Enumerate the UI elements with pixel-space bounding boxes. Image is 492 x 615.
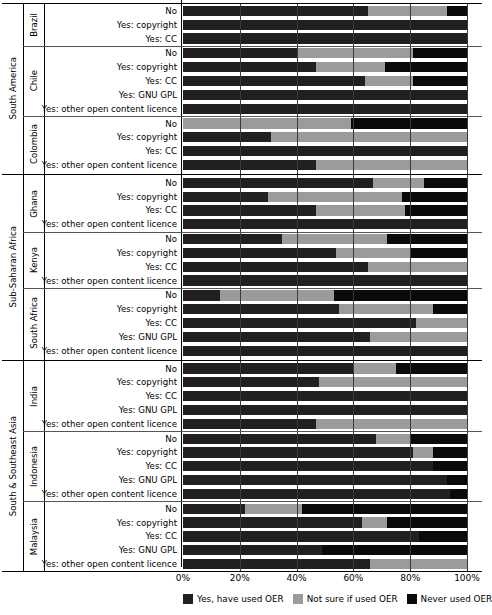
row-label: Yes: CC [146,459,178,473]
bar-row [183,405,467,415]
country-label: South Africa [29,297,39,349]
row-label: Yes: CC [146,316,178,330]
bar-segment-1 [376,434,410,444]
country-separator [23,232,482,233]
row-label: No [165,432,177,446]
row-label: Yes: GNU GPL [119,473,177,487]
region-separator [2,360,482,361]
bar-row [183,205,467,215]
bar-segment-0 [183,545,322,555]
bar-segment-2 [396,363,467,373]
row-label: Yes: copyright [117,246,177,260]
bar-segment-2 [413,48,467,58]
row-label: Yes: copyright [117,60,177,74]
bar-segment-0 [183,219,467,229]
row-label: Yes: copyright [117,375,177,389]
bar-segment-1 [353,363,396,373]
legend-label: Not sure if used OER [307,594,398,604]
row-label: Yes: other open content licence [42,417,177,431]
plot-left-axis-line [181,0,182,567]
bar-row [183,346,467,356]
row-label: No [165,362,177,376]
row-label: No [165,4,177,18]
bar-segment-1 [336,248,410,258]
bar-row [183,76,467,86]
legend-item: Yes, have used OER [183,594,284,604]
x-axis-tick-label: 20% [230,573,250,583]
country-label: Brazil [29,13,39,37]
bar-segment-0 [183,363,353,373]
bar-segment-1 [271,132,467,142]
bar-row [183,20,467,30]
row-label: Yes: copyright [117,302,177,316]
country-label: Chile [29,70,39,91]
row-label: Yes: other open content licence [42,102,177,116]
bar-segment-0 [183,346,467,356]
bar-segment-1 [362,517,388,527]
bar-row [183,504,467,514]
row-label: No [165,176,177,190]
bar-row [183,290,467,300]
bar-row [183,363,467,373]
bar-segment-2 [413,76,467,86]
bar-row [183,447,467,457]
region-label: South America [8,57,18,119]
bar-segment-2 [387,517,467,527]
bar-segment-0 [183,559,370,569]
legend-swatch [183,594,193,604]
x-axis: 0%20%40%60%80%100% [183,573,467,589]
bar-segment-2 [322,545,467,555]
row-label: Yes: GNU GPL [119,330,177,344]
bar-row [183,48,467,58]
region-label-cell: South America [2,4,24,172]
bar-segment-2 [447,6,467,16]
x-axis-tick-label: 40% [287,573,307,583]
country-label: Colombia [29,124,39,164]
row-label: Yes: GNU GPL [119,543,177,557]
bar-segment-0 [183,318,416,328]
row-label: No [165,232,177,246]
bar-segment-0 [183,146,467,156]
bar-row [183,332,467,342]
bar-segment-1 [245,504,302,514]
row-label: Yes: other open content licence [42,158,177,172]
bar-row [183,62,467,72]
bar-row [183,531,467,541]
bar-segment-1 [183,118,351,128]
bar-segment-1 [370,559,467,569]
row-label: Yes: copyright [117,446,177,460]
region-label: Sub-Saharan Africa [8,226,18,307]
legend-label: Yes, have used OER [197,594,284,604]
bar-row [183,275,467,285]
bar-segment-2 [424,178,467,188]
row-label: Yes: copyright [117,516,177,530]
bar-segment-0 [183,33,467,43]
bar-row [183,377,467,387]
bar-segment-0 [183,332,370,342]
x-axis-tick-label: 0% [176,573,190,583]
bar-segment-2 [410,248,467,258]
bar-row [183,192,467,202]
country-label: Ghana [29,190,39,218]
bar-row [183,318,467,328]
bar-segment-1 [316,419,467,429]
bar-segment-0 [183,475,447,485]
bar-row [183,262,467,272]
x-axis-tick-label: 80% [400,573,420,583]
region-label-cell: Sub-Saharan Africa [2,176,24,358]
row-label: Yes: CC [146,389,178,403]
bar-segment-0 [183,504,245,514]
bar-segment-0 [183,304,339,314]
legend-swatch [407,594,417,604]
bar-segment-2 [433,304,467,314]
bar-segment-0 [183,248,336,258]
bar-segment-0 [183,104,467,114]
bar-segment-0 [183,377,319,387]
bar-segment-1 [316,62,384,72]
bar-row [183,90,467,100]
bar-segment-2 [419,531,467,541]
chart-legend: Yes, have used OERNot sure if used OERNe… [183,592,483,606]
bar-segment-0 [183,20,467,30]
bar-segment-2 [302,504,467,514]
